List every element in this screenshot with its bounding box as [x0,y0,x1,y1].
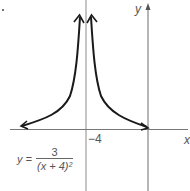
y-axis-label: y [135,3,141,15]
equation-label: y = 3 (x + 4)² [17,146,73,172]
equation-lhs: y = [17,153,32,165]
graph-figure: y x −4 y = 3 (x + 4)² [0,0,190,191]
curve-right-branch [91,17,147,127]
equation-fraction: 3 (x + 4)² [36,146,73,172]
curve-left-branch [22,17,80,126]
y-axis-arrow-icon [146,3,151,10]
tick-label-neg4: −4 [88,133,102,145]
equation-denominator: (x + 4)² [36,158,73,172]
equation-numerator: 3 [50,146,60,158]
x-axis-label: x [184,134,190,146]
